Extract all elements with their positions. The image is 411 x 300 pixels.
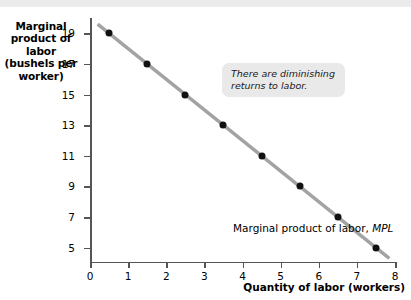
data-point [372,244,379,251]
data-point [182,91,189,98]
curve-label-prefix: Marginal product of labor, [233,222,372,234]
y-tick-label: 15 [62,89,75,101]
curve-label: Marginal product of labor, MPL [233,222,393,234]
y-tick-label: 5 [68,242,75,254]
y-tick-label: 9 [68,180,75,192]
y-tick-label: 19 [62,27,75,39]
x-axis-title: Quantity of labor (workers) [0,281,405,293]
curve-label-symbol: MPL [372,222,393,234]
callout-line-2: returns to labor. [231,80,337,92]
chart-root: Marginal product of labor (bushels per w… [0,0,411,300]
callout-line-1: There are diminishing [231,68,337,80]
data-point [144,60,151,67]
data-point [334,214,341,221]
data-point [220,122,227,129]
y-axis-title-line-4: worker) [2,70,80,82]
data-point [106,30,113,37]
y-tick-label: 13 [62,119,75,131]
y-tick-label: 7 [68,211,75,223]
diminishing-returns-callout: There are diminishing returns to labor. [222,63,345,97]
data-point [296,183,303,190]
y-tick-label: 11 [62,150,75,162]
top-decorative-band [0,0,411,7]
data-point [258,152,265,159]
x-tick [395,262,397,268]
y-tick-label: 17 [62,58,75,70]
